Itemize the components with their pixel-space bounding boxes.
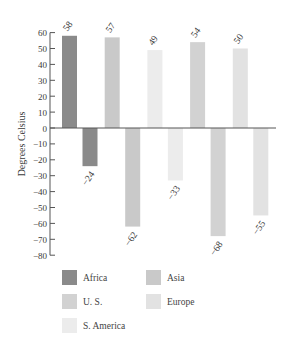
legend-label: U. S.: [83, 297, 102, 307]
bars: 58−2457−6249−3354−6850−55: [61, 19, 268, 257]
y-tick-label: 10: [38, 108, 48, 118]
legend-item-samerica: S. America: [62, 318, 125, 333]
bar-high-europe: [233, 49, 248, 129]
legend-swatch: [62, 294, 77, 309]
bar-value-label: −55: [251, 219, 268, 237]
legend-item-asia: Asia: [146, 270, 184, 285]
bar-high-samerica: [147, 50, 162, 128]
y-tick-label: −20: [33, 155, 48, 165]
bar-value-label: 57: [104, 21, 118, 35]
bar-low-us: [211, 128, 226, 236]
bar-high-asia: [105, 37, 120, 128]
bar-high-africa: [62, 36, 77, 128]
y-tick-label: −30: [33, 171, 48, 181]
legend-label: Asia: [167, 273, 184, 283]
bar-low-africa: [83, 128, 98, 166]
bar-value-label: −33: [165, 184, 182, 202]
legend-swatch: [62, 270, 77, 285]
y-tick-label: −60: [33, 219, 48, 229]
legend-label: S. America: [83, 321, 125, 331]
y-tick-label: 0: [43, 124, 48, 134]
bar-low-samerica: [168, 128, 183, 180]
y-tick-label: 60: [38, 28, 48, 38]
bar-value-label: −24: [80, 169, 97, 187]
y-tick-label: 30: [38, 76, 48, 86]
y-axis: 6050403020100−10−20−30−40−50−60−70−80: [33, 28, 55, 261]
bar-value-label: 58: [61, 19, 75, 33]
y-tick-label: 40: [38, 60, 48, 70]
bar-value-label: −68: [208, 239, 225, 257]
bar-value-label: 50: [232, 32, 246, 46]
bar-high-us: [190, 42, 205, 128]
y-axis-label: Degrees Celsius: [16, 112, 27, 177]
legend-swatch: [62, 318, 77, 333]
legend-item-europe: Europe: [146, 294, 194, 309]
bar-low-asia: [125, 128, 140, 227]
legend-label: Europe: [167, 297, 194, 307]
legend-swatch: [146, 270, 161, 285]
bar-chart: 6050403020100−10−20−30−40−50−60−70−80 De…: [0, 0, 284, 270]
y-tick-label: 20: [38, 92, 48, 102]
y-tick-label: −50: [33, 203, 48, 213]
y-tick-label: −80: [33, 251, 48, 261]
y-tick-label: −70: [33, 235, 48, 245]
legend-label: Africa: [83, 273, 107, 283]
bar-value-label: −62: [123, 230, 140, 248]
legend-item-us: U. S.: [62, 294, 102, 309]
y-tick-label: 50: [38, 44, 48, 54]
y-tick-label: −40: [33, 187, 48, 197]
bar-value-label: 54: [189, 26, 203, 40]
legend-swatch: [146, 294, 161, 309]
bar-low-europe: [253, 128, 268, 215]
bar-value-label: 49: [146, 34, 160, 48]
y-tick-label: −10: [33, 139, 48, 149]
legend-item-africa: Africa: [62, 270, 107, 285]
